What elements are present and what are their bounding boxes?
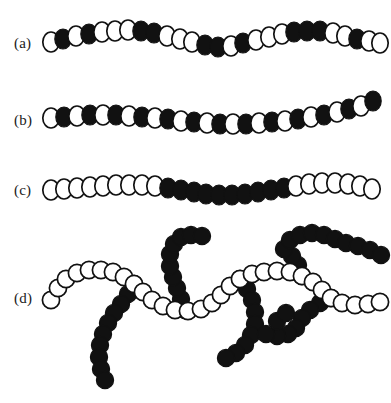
- bead-open: [95, 105, 111, 125]
- bead-filled: [160, 178, 176, 198]
- bead-filled: [276, 178, 292, 198]
- bead-filled: [55, 29, 71, 49]
- bead-filled: [198, 184, 214, 204]
- bead-open: [281, 263, 298, 280]
- bead-filled: [246, 303, 263, 320]
- bead-open: [221, 277, 238, 294]
- branch-3: [275, 224, 389, 284]
- bead-open: [313, 281, 330, 298]
- bead-filled: [326, 230, 343, 247]
- bead-open: [288, 176, 304, 196]
- bead-open: [166, 301, 183, 318]
- bead-filled: [172, 228, 189, 245]
- bead-filled: [186, 182, 202, 202]
- bead-open: [231, 270, 248, 287]
- bead-open: [125, 275, 142, 292]
- copolymer-figure: (a) (b) (c) (d): [0, 0, 391, 403]
- bead-open: [49, 279, 66, 296]
- bead-filled: [193, 227, 210, 244]
- bead-filled: [372, 246, 389, 263]
- bead-open: [82, 177, 98, 197]
- bead-filled: [197, 35, 213, 55]
- bead-filled: [161, 257, 178, 274]
- row-label-d: (d): [14, 290, 32, 307]
- bead-open: [340, 174, 356, 194]
- bead-open: [68, 26, 84, 46]
- bead-filled: [238, 114, 254, 134]
- bead-filled: [176, 301, 193, 318]
- bead-open: [203, 294, 220, 311]
- bead-filled: [172, 290, 189, 307]
- bead-filled: [146, 23, 162, 43]
- bead-open: [243, 265, 260, 282]
- bead-filled: [238, 280, 255, 297]
- bead-filled: [341, 99, 357, 119]
- bead-filled: [365, 91, 381, 111]
- bead-filled: [293, 267, 310, 284]
- bead-open: [95, 176, 111, 196]
- bead-open: [43, 32, 59, 52]
- bead-open: [143, 291, 160, 308]
- bead-filled: [268, 327, 285, 344]
- bead-filled: [81, 24, 97, 44]
- bead-filled: [290, 109, 306, 129]
- bead-filled: [210, 37, 226, 57]
- bead-open: [199, 113, 215, 133]
- bead-open: [333, 294, 350, 311]
- bead-open: [212, 286, 229, 303]
- bead-open: [134, 175, 150, 195]
- bead-filled: [125, 275, 142, 292]
- bead-open: [173, 111, 189, 131]
- bead-open: [172, 29, 188, 49]
- bead-filled: [231, 270, 248, 287]
- bead-filled: [112, 295, 129, 312]
- bead-filled: [246, 315, 263, 332]
- bead-open: [192, 300, 209, 317]
- bead-filled: [119, 285, 136, 302]
- bead-open: [108, 175, 124, 195]
- bead-filled: [186, 112, 202, 132]
- bead-filled: [312, 21, 328, 41]
- bead-filled: [91, 336, 108, 353]
- bead-open: [43, 180, 59, 200]
- bead-filled: [82, 105, 98, 125]
- bead-open: [223, 36, 239, 56]
- bead-open: [314, 173, 330, 193]
- bead-filled: [349, 237, 366, 254]
- bead-open: [251, 113, 267, 133]
- bead-open: [225, 114, 241, 134]
- bead-filled: [227, 344, 244, 361]
- bead-filled: [291, 226, 308, 243]
- bead-filled: [96, 371, 113, 388]
- row-label-b: (b): [14, 112, 32, 129]
- bead-open: [43, 108, 59, 128]
- bead-filled: [134, 107, 150, 127]
- bead-open: [154, 297, 171, 314]
- bead-filled: [237, 184, 253, 204]
- bead-filled: [349, 29, 365, 49]
- bead-open: [325, 23, 341, 43]
- chain-row-c: [43, 173, 380, 205]
- chain-row-b: [43, 91, 381, 134]
- bead-filled: [301, 301, 318, 318]
- bead-open: [268, 262, 285, 279]
- bead-open: [293, 267, 310, 284]
- bead-open: [57, 270, 74, 287]
- branch-1: [161, 226, 210, 318]
- chain-row-a: [43, 20, 388, 57]
- bead-filled: [277, 304, 294, 321]
- bead-open: [327, 173, 343, 193]
- bead-filled: [264, 112, 280, 132]
- bead-filled: [235, 33, 251, 53]
- bead-filled: [161, 245, 178, 262]
- bead-filled: [337, 234, 354, 251]
- bead-open: [104, 263, 121, 280]
- bead-filled: [275, 240, 292, 257]
- bead-open: [303, 107, 319, 127]
- bead-open: [159, 26, 175, 46]
- bead-open: [107, 21, 123, 41]
- bead-open: [248, 30, 264, 50]
- bead-open: [115, 268, 132, 285]
- bead-filled: [182, 226, 199, 243]
- bead-filled: [160, 109, 176, 129]
